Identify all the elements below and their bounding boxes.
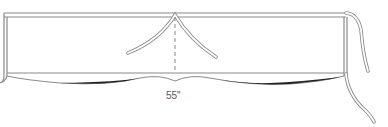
center-tie	[128, 15, 216, 57]
fabric-diagram	[0, 0, 388, 127]
right-tie-bottom	[346, 74, 374, 122]
bottom-wave	[7, 76, 344, 84]
right-tie-top	[346, 13, 368, 71]
measurement-label: 55"	[166, 90, 181, 101]
right-edge	[344, 17, 347, 76]
left-edge	[0, 13, 7, 83]
